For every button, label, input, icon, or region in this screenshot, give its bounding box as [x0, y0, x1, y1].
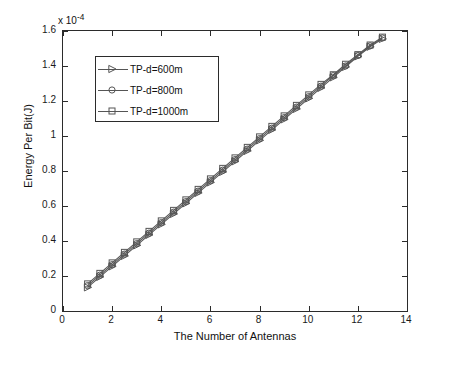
x-tick-top: [260, 31, 261, 36]
x-tick-top: [407, 31, 408, 36]
x-tick-top: [161, 31, 162, 36]
x-tick-top: [112, 31, 113, 36]
x-tick-top: [358, 31, 359, 36]
x-tick-label: 14: [391, 314, 421, 325]
y-tick-right: [402, 171, 407, 172]
y-tick-label: 1.4: [22, 59, 56, 70]
y-tick-right: [402, 31, 407, 32]
legend-item: TP-d=800m: [96, 79, 218, 101]
y-tick-label: 1: [22, 129, 56, 140]
x-tick-label: 4: [145, 314, 175, 325]
y-tick: [63, 311, 68, 312]
y-tick: [63, 66, 68, 67]
triangle-right-marker: [106, 62, 120, 76]
legend-sample: [96, 60, 130, 78]
x-axis-label: The Number of Antennas: [62, 330, 408, 342]
y-tick-label: 0: [22, 304, 56, 315]
figure-canvas: x 10-4 The Number of Antennas Energy Per…: [0, 0, 455, 381]
y-tick-right: [402, 136, 407, 137]
legend-label: TP-d=1000m: [130, 106, 188, 117]
y-tick: [63, 101, 68, 102]
x-tick: [407, 306, 408, 311]
x-tick: [112, 306, 113, 311]
y-tick: [63, 241, 68, 242]
y-axis-exponent: x 10-4: [58, 12, 84, 26]
x-tick-label: 8: [244, 314, 274, 325]
y-tick-right: [402, 276, 407, 277]
y-tick-right: [402, 241, 407, 242]
x-tick-top: [210, 31, 211, 36]
legend-item: TP-d=1000m: [96, 100, 218, 122]
y-axis-exponent-power: -4: [77, 12, 84, 22]
circle-marker: [106, 83, 120, 97]
y-tick-label: 0.6: [22, 199, 56, 210]
x-tick: [210, 306, 211, 311]
legend-label: TP-d=600m: [130, 64, 183, 75]
y-tick-right: [402, 311, 407, 312]
legend-sample: [96, 102, 130, 120]
x-tick-top: [309, 31, 310, 36]
square-marker: [106, 104, 120, 118]
x-tick-label: 12: [342, 314, 372, 325]
x-tick: [358, 306, 359, 311]
y-tick: [63, 171, 68, 172]
x-tick-label: 10: [293, 314, 323, 325]
y-tick-label: 1.2: [22, 94, 56, 105]
y-tick-right: [402, 66, 407, 67]
x-tick: [161, 306, 162, 311]
x-tick: [309, 306, 310, 311]
y-tick: [63, 31, 68, 32]
y-tick-label: 0.2: [22, 269, 56, 280]
y-tick: [63, 136, 68, 137]
legend-sample: [96, 81, 130, 99]
x-tick: [260, 306, 261, 311]
x-tick-label: 2: [96, 314, 126, 325]
x-tick-label: 6: [194, 314, 224, 325]
legend-box: TP-d=600mTP-d=800mTP-d=1000m: [95, 56, 219, 122]
y-tick-label: 0.8: [22, 164, 56, 175]
x-tick-label: 0: [47, 314, 77, 325]
y-tick-label: 0.4: [22, 234, 56, 245]
y-axis-exponent-base: x 10: [58, 15, 77, 26]
y-tick-right: [402, 101, 407, 102]
y-tick: [63, 206, 68, 207]
y-tick-label: 1.6: [22, 24, 56, 35]
y-tick: [63, 276, 68, 277]
legend-label: TP-d=800m: [130, 85, 183, 96]
legend-item: TP-d=600m: [96, 58, 218, 80]
y-tick-right: [402, 206, 407, 207]
